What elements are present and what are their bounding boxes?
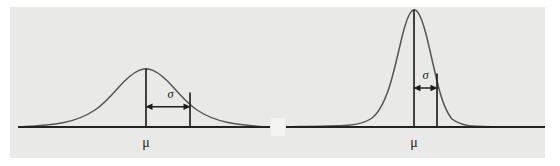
right-mu-label: μ [410, 135, 418, 150]
panel-baseline-gap [271, 118, 285, 136]
left-sigma-label: σ [167, 87, 174, 101]
left-mu-label: μ [142, 135, 150, 150]
figure-root: σ μ σ μ [0, 0, 560, 166]
normal-distribution-figure: σ μ σ μ [0, 0, 560, 166]
right-sigma-label: σ [422, 68, 429, 82]
